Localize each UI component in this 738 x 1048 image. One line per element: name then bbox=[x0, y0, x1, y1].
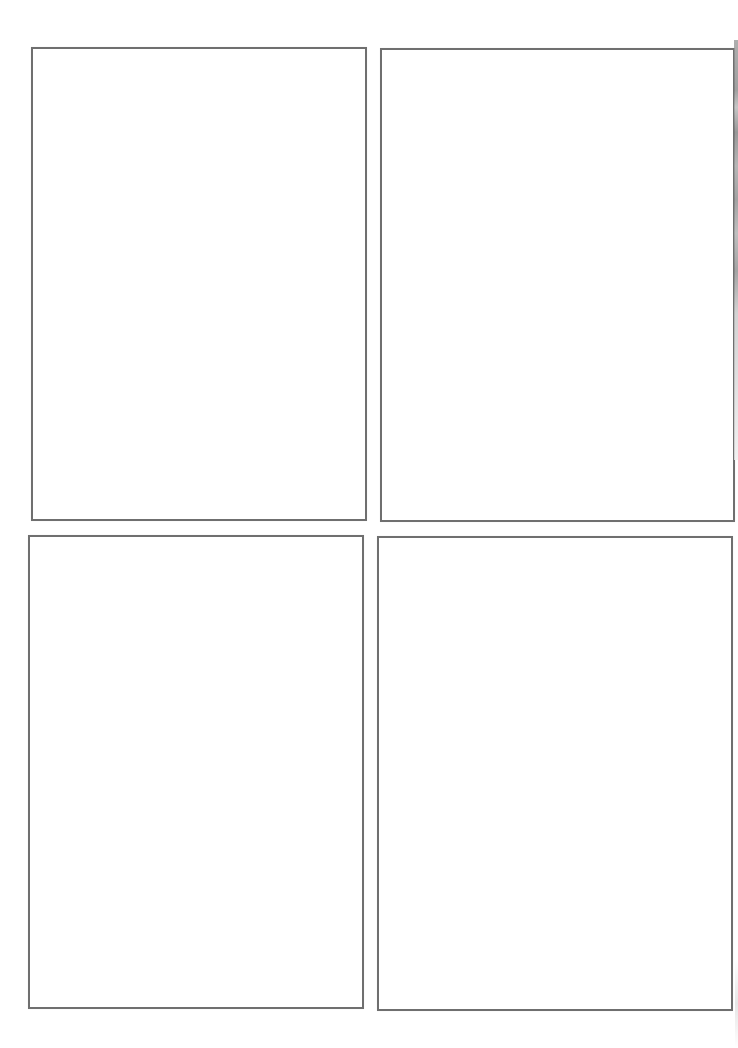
scan-edge-artifact bbox=[734, 40, 738, 460]
frame-top-left bbox=[31, 47, 367, 521]
frame-bottom-left bbox=[28, 535, 364, 1009]
frame-bottom-right bbox=[377, 536, 733, 1011]
frame-top-right bbox=[380, 48, 735, 522]
cut-off-header-text bbox=[0, 0, 738, 5]
